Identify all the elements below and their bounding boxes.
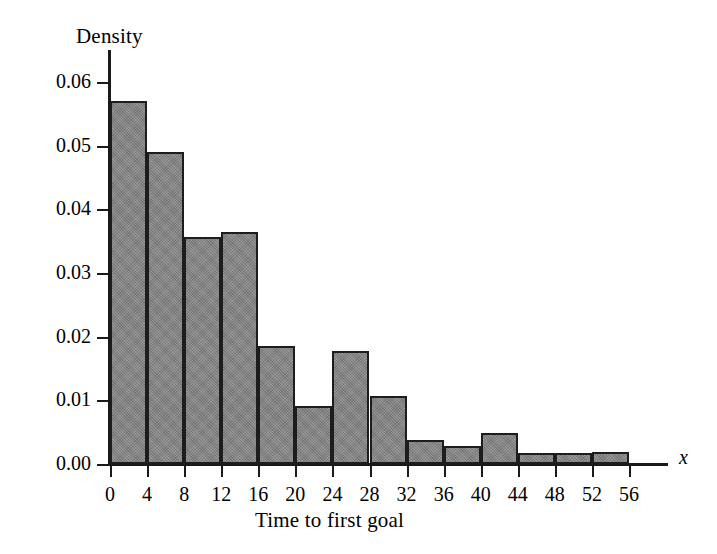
y-axis-tick-label: 0.04 [56,196,91,220]
y-axis-tick-label: 0.00 [56,451,91,475]
x-axis-tick [295,464,297,477]
y-axis-tick: 0.05 [97,146,110,148]
x-axis-tick [444,464,446,477]
y-axis-tick-label: 0.02 [56,324,91,348]
y-axis-tick-label: 0.03 [56,260,91,284]
histogram-bar [407,440,444,464]
x-axis-title-text: Time to first goal [255,508,404,533]
histogram-figure: Density x Time to first goal 0.000.010.0… [0,0,717,554]
histogram-bar [110,101,147,464]
histogram-bar [444,446,481,464]
x-axis-tick [147,464,149,477]
x-axis-tick [221,464,223,477]
x-axis-tick [629,464,631,477]
x-axis-tick [184,464,186,477]
y-axis-tick: 0.00 [97,464,110,466]
histogram-bar [370,396,407,464]
y-axis-tick: 0.04 [97,209,110,211]
y-axis-tick-label: 0.05 [56,133,91,157]
y-axis-tick: 0.01 [97,400,110,402]
histogram-bar [332,351,369,464]
y-axis-title: Density [76,24,143,49]
plot-area: 0.000.010.020.030.040.050.06048121620242… [110,82,629,464]
x-axis-tick [518,464,520,477]
x-axis-tick [407,464,409,477]
y-axis-tick: 0.06 [97,82,110,84]
x-axis-tick [258,464,260,477]
histogram-bar [555,453,592,464]
x-axis-title: Time to first goal [0,508,717,533]
histogram-bar [184,237,221,464]
histogram-bar [147,152,184,464]
y-axis-tick-label: 0.01 [56,387,91,411]
x-axis-tick [481,464,483,477]
x-axis-tick [592,464,594,477]
x-axis-tick [110,464,112,477]
y-axis-tick-label: 0.06 [56,69,91,93]
histogram-bar [481,433,518,464]
x-axis-tick [332,464,334,477]
histogram-bar [258,346,295,464]
x-axis-tick [370,464,372,477]
x-axis-tick-label: 56 [607,482,651,506]
x-axis-tick [555,464,557,477]
histogram-bar [221,232,258,464]
histogram-bar [518,453,555,464]
y-axis-tick: 0.03 [97,273,110,275]
histogram-bar [295,406,332,464]
x-axis-variable-label: x [679,446,688,469]
y-axis-tick: 0.02 [97,337,110,339]
histogram-bar [592,452,629,464]
